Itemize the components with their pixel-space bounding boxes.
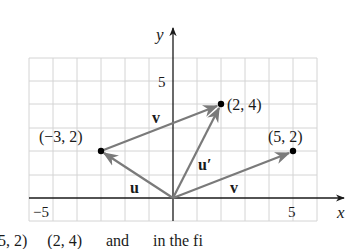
point-label-neg3-2: (−3, 2) <box>39 128 83 146</box>
y-axis-label: y <box>154 25 164 44</box>
point-2-4 <box>218 101 224 107</box>
x-axis-label: x <box>336 203 345 222</box>
x-tick-5: 5 <box>288 204 296 220</box>
y-tick-5: 5 <box>158 74 166 90</box>
vector-label-v-bottom: v <box>230 179 238 196</box>
vector-label-u-prime: u′ <box>198 156 211 173</box>
point-label-5-2: (5, 2) <box>268 128 303 146</box>
point-label-2-4: (2, 4) <box>227 96 262 114</box>
point-5-2 <box>290 148 296 154</box>
caption-text: 5, 2) (2, 4) and in the fi <box>0 232 203 249</box>
vector-diagram: x y −5 5 5 (−3, 2) (2, 4) (5, 2) u v u′ … <box>0 0 350 249</box>
vector-label-u: u <box>130 179 139 196</box>
point-neg3-2 <box>98 148 104 154</box>
x-tick-neg5: −5 <box>33 204 49 220</box>
vector-label-v-top: v <box>152 109 160 126</box>
